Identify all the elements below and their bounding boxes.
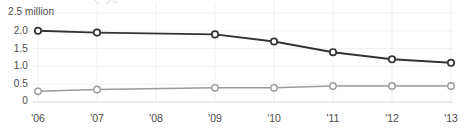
data-point-marker-upper-line [212,31,218,37]
x-tick-label: '07 [77,112,117,124]
data-point-marker-upper-line [389,56,395,62]
x-tick-label: '13 [431,112,470,124]
x-tick-label: '06 [18,112,58,124]
y-tick-label: 0 [8,95,28,107]
data-point-marker-lower-line [212,85,218,91]
x-tick-label: '11 [313,112,353,124]
data-point-marker-lower-line [271,85,277,91]
data-point-marker-lower-line [330,83,336,89]
y-tick-label: 0.5 [8,78,28,90]
data-point-marker-upper-line [330,49,336,55]
x-tick-label: '12 [372,112,412,124]
data-point-marker-lower-line [35,88,41,94]
data-point-marker-upper-line [271,38,277,44]
y-tick-label: 2.5 million [8,6,28,18]
line-chart: 2.5 million 2.0 1.5 1.0 0.5 0 '06 '07 '0… [0,0,470,131]
data-point-marker-upper-line [35,28,41,34]
y-tick-label: 2.0 [8,25,28,37]
cropped-text-remnant [95,0,118,4]
data-point-marker-lower-line [94,86,100,92]
data-point-marker-lower-line [389,83,395,89]
x-tick-label: '08 [136,112,176,124]
x-tick-label: '09 [195,112,235,124]
x-tick-label: '10 [254,112,294,124]
data-point-marker-lower-line [448,83,454,89]
y-tick-label: 1.0 [8,60,28,72]
y-tick-label: 1.5 [8,43,28,55]
data-point-marker-upper-line [94,29,100,35]
data-point-marker-upper-line [448,60,454,66]
